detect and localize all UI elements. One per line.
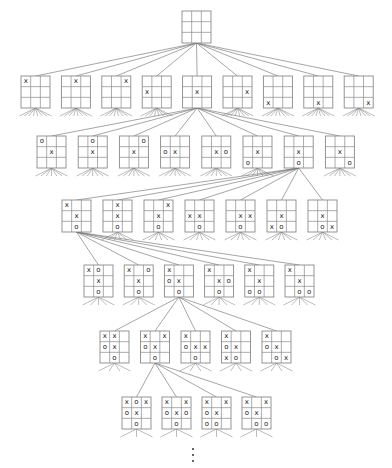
o-mark: o: [174, 420, 178, 428]
branch-stub: [177, 429, 193, 437]
x-mark: x: [217, 277, 221, 285]
o-mark: o: [265, 343, 269, 351]
level-3-board: xxo: [144, 200, 173, 232]
level-2-board: ox: [37, 136, 66, 168]
x-mark: x: [124, 77, 128, 85]
x-mark: x: [214, 148, 218, 156]
o-mark: o: [153, 354, 157, 362]
x-mark: x: [224, 354, 228, 362]
tree-edge: [77, 232, 300, 265]
o-mark: o: [165, 409, 169, 417]
o-mark: o: [96, 288, 100, 296]
level-3-board: xxo: [226, 200, 255, 232]
o-mark: o: [125, 409, 129, 417]
x-mark: x: [297, 277, 301, 285]
level-2-board: ox: [161, 136, 190, 168]
branch-stub: [278, 108, 294, 116]
x-mark: x: [127, 266, 131, 274]
branch-stub: [219, 297, 235, 305]
tree-edge: [197, 43, 319, 76]
o-mark: o: [156, 223, 160, 231]
x-mark: x: [366, 99, 370, 107]
tree-edge: [118, 168, 299, 200]
leaf-branch-stubs: [20, 108, 375, 437]
level-3-board: xxo: [103, 200, 132, 232]
branch-stub: [131, 297, 139, 305]
o-mark: o: [96, 266, 100, 274]
ellipsis-dot: [192, 454, 194, 456]
x-mark: x: [184, 398, 188, 406]
o-mark: o: [137, 288, 141, 296]
branch-stub: [217, 429, 233, 437]
tree-edge: [155, 297, 179, 331]
branch-stub: [241, 429, 257, 437]
x-mark: x: [197, 212, 201, 220]
level-6-board: xxoxoo: [162, 397, 191, 429]
o-mark: o: [141, 137, 145, 145]
o-mark: o: [279, 223, 283, 231]
x-mark: x: [266, 99, 270, 107]
x-mark: x: [156, 212, 160, 220]
level-3-board: xxo: [62, 200, 91, 232]
x-mark: x: [270, 223, 274, 231]
ellipsis-dot: [192, 448, 194, 450]
level-5-board: xxoxo: [100, 331, 129, 363]
level-4-board: xxoo: [245, 265, 274, 297]
branch-stub: [243, 297, 259, 305]
o-mark: o: [217, 288, 221, 296]
x-mark: x: [320, 212, 324, 220]
x-mark: x: [115, 212, 119, 220]
x-mark: x: [137, 277, 141, 285]
branch-stub: [164, 168, 175, 176]
o-mark: o: [103, 343, 107, 351]
x-mark: x: [91, 148, 95, 156]
branch-stub: [222, 108, 238, 116]
x-mark: x: [112, 343, 116, 351]
branch-stub: [203, 297, 219, 305]
x-mark: x: [254, 409, 258, 417]
ellipsis-dot: [192, 460, 194, 462]
x-mark: x: [238, 212, 242, 220]
level-1-board: x: [142, 76, 171, 108]
x-mark: x: [224, 398, 228, 406]
level-5-board: xxoxo: [141, 331, 170, 363]
level-4-board: xxoo: [285, 265, 314, 297]
branch-stub: [259, 297, 275, 305]
branch-stub: [211, 297, 219, 305]
branch-stub: [100, 108, 116, 116]
x-mark: x: [203, 343, 207, 351]
tree-edge: [115, 297, 179, 331]
o-mark: o: [254, 420, 258, 428]
board-frame: [182, 11, 211, 43]
branch-stub: [175, 168, 186, 176]
level-2-board: xo: [202, 136, 231, 168]
tree-edge: [157, 43, 197, 76]
x-mark: x: [96, 277, 100, 285]
o-mark: o: [347, 159, 351, 167]
x-mark: x: [145, 88, 149, 96]
branch-stub: [93, 168, 104, 176]
x-mark: x: [177, 277, 181, 285]
level-1-board: x: [263, 76, 292, 108]
level-5-board: xoxxo: [181, 331, 210, 363]
branch-stub: [161, 429, 177, 437]
x-mark: x: [115, 201, 119, 209]
o-mark: o: [274, 354, 278, 362]
branch-stub: [157, 108, 173, 116]
branch-stub: [41, 168, 52, 176]
branch-stub: [329, 168, 340, 176]
branch-stub: [91, 297, 99, 305]
level-3-board: xxo: [185, 200, 214, 232]
branch-stub: [340, 168, 351, 176]
o-mark: o: [197, 223, 201, 231]
x-mark: x: [65, 201, 69, 209]
x-mark: x: [257, 277, 261, 285]
tree-edge: [197, 43, 238, 76]
x-mark: x: [125, 398, 129, 406]
tree-edge: [77, 168, 299, 200]
x-mark: x: [184, 332, 188, 340]
o-mark: o: [234, 354, 238, 362]
o-mark: o: [297, 159, 301, 167]
level-2-board: ox: [119, 136, 148, 168]
branch-stub: [20, 108, 36, 116]
